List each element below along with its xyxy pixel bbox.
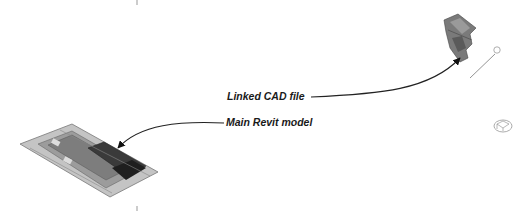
linked-cad-leader bbox=[311, 58, 460, 97]
diagram-canvas bbox=[0, 0, 531, 211]
main-model-leader bbox=[118, 122, 224, 148]
main-model-label: Main Revit model bbox=[226, 116, 312, 128]
revit-model-site-icon[interactable] bbox=[20, 124, 158, 197]
linked-cad-label: Linked CAD file bbox=[227, 90, 305, 102]
linked-cad-site-icon[interactable] bbox=[444, 14, 476, 62]
survey-point-icon[interactable] bbox=[470, 47, 500, 78]
viewcube-icon[interactable] bbox=[494, 120, 512, 132]
